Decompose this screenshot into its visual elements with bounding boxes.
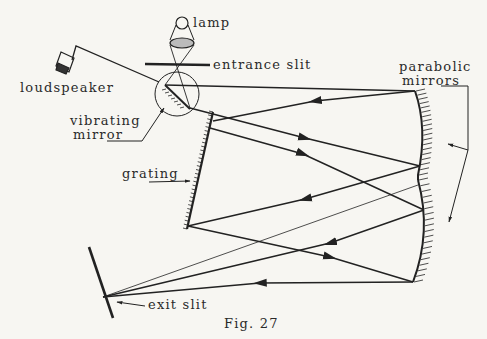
- loudspeaker-icon: [56, 46, 159, 82]
- vibrating-mirror-label-1: vibrating: [70, 114, 141, 128]
- lamp-icon: [176, 17, 188, 29]
- exit-slit-label: exit slit: [148, 298, 208, 312]
- parabolic-mirrors-label-2: mirrors: [402, 74, 460, 88]
- entrance-slit-label: entrance slit: [213, 58, 312, 72]
- lamp-label: lamp: [193, 16, 230, 30]
- entrance-slit: [145, 64, 210, 65]
- loudspeaker-label: loudspeaker: [20, 81, 114, 95]
- spectrometer-diagram: lamp entrance slit loudspeaker vibrating…: [0, 0, 487, 339]
- figure-caption: Fig. 27: [224, 317, 279, 331]
- grating-label: grating: [122, 167, 179, 181]
- lower-parabolic-mirror: [413, 180, 424, 282]
- condenser-lens: [170, 38, 194, 48]
- vibrating-mirror-label-2: mirror: [73, 128, 123, 142]
- parabolic-mirrors-label-1: parabolic: [399, 60, 472, 74]
- leader-lines: [107, 86, 468, 306]
- diagram-drawing: [0, 0, 487, 339]
- exit-slit: [89, 247, 113, 318]
